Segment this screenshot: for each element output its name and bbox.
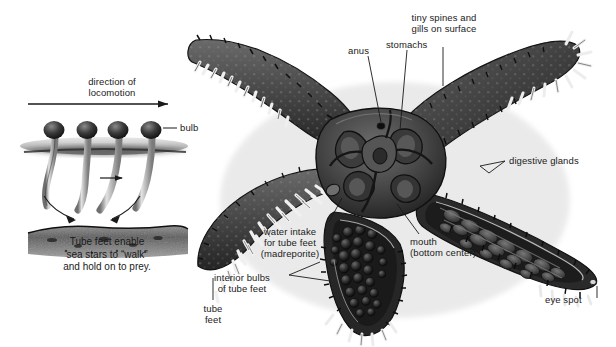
inset-caption: Tube feet enable sea stars to “walk” and… (34, 236, 180, 274)
label-anus: anus (348, 45, 369, 56)
anus-opening (377, 123, 385, 130)
label-spines-gills: tiny spines and gills on surface (388, 12, 500, 34)
label-digestive-glands: digestive glands (509, 155, 579, 166)
sea-star-diagram (0, 0, 616, 347)
bulb-shape (44, 121, 65, 139)
direction-arrow-icon (28, 100, 168, 107)
body-wall (20, 137, 188, 155)
label-tube-feet: tube feet (193, 303, 233, 325)
label-stomachs: stomachs (386, 39, 427, 50)
tube-foot-group (44, 121, 162, 210)
inset-heading: direction of locomotion (58, 76, 166, 98)
bulb-shape-labeled (141, 121, 162, 139)
label-bulb: bulb (180, 122, 198, 133)
sea-star-body (188, 32, 597, 345)
label-interior-bulbs: interior bulbs of tube feet (196, 272, 288, 294)
label-mouth: mouth (bottom center) (410, 236, 502, 258)
substrate-arrows-icon (44, 196, 140, 219)
eye-spot-marker (590, 279, 596, 284)
tube-feet-inset (20, 100, 188, 258)
central-disc (316, 108, 446, 218)
label-eye-spot: eye spot (545, 294, 582, 305)
label-madreporite: water intake for tube feet (madreporite) (244, 226, 336, 259)
